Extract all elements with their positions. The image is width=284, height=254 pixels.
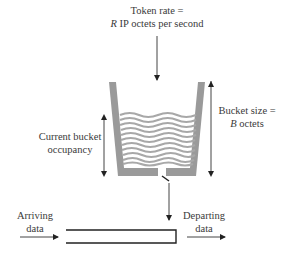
token-bucket-diagram: Token rate = R IP octets per second Curr… (0, 0, 284, 254)
arriving-data-label: Arriving data (10, 209, 60, 235)
departing-data-label: Departing data (176, 209, 232, 235)
occupancy-line2: occupancy (30, 143, 110, 156)
departing-line2: data (176, 222, 232, 235)
token-rate-line1: Token rate = (92, 4, 222, 17)
occupancy-line1: Current bucket (30, 130, 110, 143)
data-queue (66, 230, 176, 243)
bucket-size-line2: B octets (210, 117, 284, 130)
arriving-line2: data (10, 222, 60, 235)
bucket-size-label: Bucket size = B octets (210, 104, 284, 130)
bucket-contents (120, 113, 196, 166)
arriving-line1: Arriving (10, 209, 60, 222)
token-rate-line2: R IP octets per second (92, 17, 222, 30)
token-rate-label: Token rate = R IP octets per second (92, 4, 222, 30)
occupancy-label: Current bucket occupancy (30, 130, 110, 156)
bucket-size-line1: Bucket size = (210, 104, 284, 117)
departing-line1: Departing (176, 209, 232, 222)
